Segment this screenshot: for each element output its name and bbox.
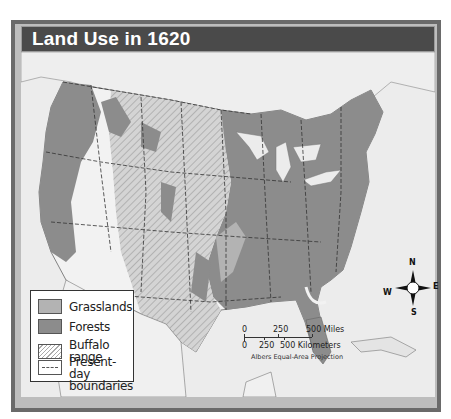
legend-label: Present-day [69,356,133,380]
forests-swatch [38,319,62,334]
compass-icon [393,268,433,308]
legend-item-forests: Forests [38,319,110,334]
compass-s: S [411,308,417,317]
legend-label-group: Present-day boundaries [69,356,133,392]
scale-km-250: 250 [259,341,274,350]
scale-line [244,337,312,338]
scale-tick [278,334,279,337]
scale-tick [312,334,313,337]
compass-n: N [409,258,416,267]
map-title: Land Use in 1620 [32,28,190,50]
scale-tick [244,334,245,341]
scale-miles-0: 0 [242,325,247,334]
legend-label-line2: boundaries [69,380,133,392]
dashed-line-icon [42,367,58,368]
legend-item-grasslands: Grasslands [38,299,132,314]
map-legend: Grasslands Forests Buffalo range Present… [30,290,134,382]
scale-miles-250: 250 [273,325,288,334]
grasslands-swatch [38,299,62,314]
legend-label: Grasslands [69,301,132,313]
compass-w: W [383,288,392,297]
scale-km-500: 500 Kilometers [280,341,341,350]
legend-item-boundaries: Present-day boundaries [38,356,133,392]
legend-label: Forests [69,321,110,333]
scale-km-0: 0 [242,341,247,350]
scale-miles-500: 500 Miles [306,325,344,334]
scale-tick [264,337,265,340]
scale-tick [284,337,285,340]
boundaries-swatch [38,360,62,375]
compass-e: E [433,282,438,291]
projection-label: Albers Equal-Area Projection [251,353,343,361]
compass-rose: N E S W [393,268,433,312]
